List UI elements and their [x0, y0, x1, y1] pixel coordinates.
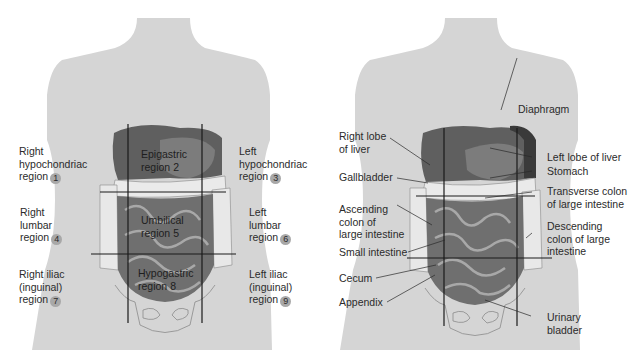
label-line: Epigastric: [141, 148, 187, 161]
label-left-lumbar: Left lumbar region6: [249, 206, 291, 245]
label-line: Urinary: [547, 311, 582, 324]
label-line: Diaphragm: [518, 103, 569, 116]
label-line: Left iliac: [249, 268, 292, 281]
label-right-lumbar: Right lumbar region4: [20, 206, 62, 245]
label-line: Hypogastric: [138, 267, 193, 280]
label-line: Appendix: [339, 296, 383, 309]
label-hypogastric: Hypogastric region 8: [138, 267, 193, 292]
label-left-hypochondriac: Left hypochondriac region3: [239, 145, 307, 184]
region-number-badge: 1: [50, 173, 61, 184]
ascending-colon: [100, 185, 118, 270]
label-right-lobe-of-liver: Right lobe of liver: [339, 130, 386, 155]
label-line: colon of: [339, 216, 404, 229]
label-line: region: [141, 161, 170, 173]
regions-figure: Right hypochondriac region1 Left hypocho…: [0, 0, 320, 352]
label-line: region: [19, 293, 48, 305]
region-number: 8: [170, 280, 176, 292]
label-line: of liver: [339, 143, 386, 156]
label-descending-colon: Descending colon of large intestine: [547, 220, 610, 258]
region-number: 2: [173, 161, 179, 173]
label-line: of large intestine: [547, 198, 627, 211]
label-line: (inguinal): [249, 281, 292, 294]
ascending-colon: [410, 188, 428, 272]
label-stomach: Stomach: [547, 165, 588, 178]
label-line: Right iliac: [19, 268, 65, 281]
label-line: Transverse colon: [547, 185, 627, 198]
label-line: intestine: [547, 245, 610, 258]
label-line: region: [249, 293, 278, 305]
region-number-badge: 9: [280, 296, 291, 307]
label-line: hypochondriac: [239, 158, 307, 171]
region-number-badge: 6: [280, 234, 291, 245]
label-line: region: [249, 231, 278, 243]
label-right-hypochondriac: Right hypochondriac region1: [19, 145, 87, 184]
label-line: colon of large: [547, 233, 610, 246]
label-line: Ascending: [339, 203, 404, 216]
label-cecum: Cecum: [339, 272, 372, 285]
label-line: large intestine: [339, 228, 404, 241]
label-line: Umbilical: [141, 214, 184, 227]
label-line: Right lobe: [339, 130, 386, 143]
organs-figure: Right lobe of liver Gallbladder Ascendin…: [320, 0, 637, 352]
label-ascending-colon: Ascending colon of large intestine: [339, 203, 404, 241]
label-gallbladder: Gallbladder: [339, 171, 393, 184]
label-line: Left: [239, 145, 307, 158]
region-number-badge: 4: [51, 234, 62, 245]
label-left-lobe-of-liver: Left lobe of liver: [547, 151, 621, 164]
label-line: region: [19, 170, 48, 182]
label-line: lumbar: [249, 219, 291, 232]
region-number-badge: 7: [50, 296, 61, 307]
label-line: region: [138, 280, 167, 292]
label-line: Left: [249, 206, 291, 219]
label-line: Small intestine: [339, 246, 407, 259]
label-urinary-bladder: Urinary bladder: [547, 311, 582, 336]
label-line: Gallbladder: [339, 171, 393, 184]
label-line: Right: [20, 206, 62, 219]
label-line: hypochondriac: [19, 158, 87, 171]
label-line: bladder: [547, 324, 582, 337]
label-line: region: [239, 170, 268, 182]
label-transverse-colon: Transverse colon of large intestine: [547, 185, 627, 210]
region-number: 5: [173, 227, 179, 239]
label-line: Descending: [547, 220, 610, 233]
label-line: Cecum: [339, 272, 372, 285]
descending-colon: [212, 188, 232, 268]
label-line: lumbar: [20, 219, 62, 232]
label-line: Right: [19, 145, 87, 158]
region-number-badge: 3: [270, 173, 281, 184]
label-diaphragm: Diaphragm: [518, 103, 569, 116]
label-left-iliac: Left iliac (inguinal) region9: [249, 268, 292, 307]
label-line: region: [141, 227, 170, 239]
label-umbilical: Umbilical region 5: [141, 214, 184, 239]
label-line: Stomach: [547, 165, 588, 178]
label-line: (inguinal): [19, 281, 65, 294]
label-right-iliac: Right iliac (inguinal) region7: [19, 268, 65, 307]
label-line: Left lobe of liver: [547, 151, 621, 164]
label-epigastric: Epigastric region 2: [141, 148, 187, 173]
label-small-intestine: Small intestine: [339, 246, 407, 259]
label-line: region: [20, 231, 49, 243]
label-appendix: Appendix: [339, 296, 383, 309]
